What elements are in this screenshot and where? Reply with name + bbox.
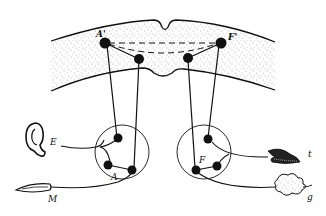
label-f: F <box>198 155 206 165</box>
nerve-muscle <box>51 172 132 188</box>
label-f-prime: F' <box>227 32 237 42</box>
muscle-icon <box>16 184 51 192</box>
label-muscle: M <box>47 194 58 204</box>
projection-inner-left-down <box>134 60 139 168</box>
projection-inner-right-down <box>188 60 195 168</box>
center-a-node-left <box>104 161 113 170</box>
center-f-node-right <box>213 162 222 171</box>
diagram-canvas: A' F' A F E M t <box>0 0 326 216</box>
nerve-gland <box>197 172 276 187</box>
center-a-node-top <box>114 134 123 143</box>
label-a: A <box>110 172 118 182</box>
center-f-circle <box>177 125 231 179</box>
node-inner-right <box>183 53 193 63</box>
label-gland: g <box>307 192 313 202</box>
label-a-prime: A' <box>95 29 106 39</box>
center-f-node-top <box>204 135 213 144</box>
node-a-prime <box>100 38 111 49</box>
label-ear: E <box>49 137 57 147</box>
center-a: A <box>95 125 149 182</box>
center-f: F <box>177 125 231 179</box>
node-f-prime <box>216 38 227 49</box>
cortex-band <box>51 20 275 91</box>
node-inner-left <box>134 54 144 64</box>
label-tongue: t <box>308 149 312 159</box>
nerve-tongue <box>212 142 268 157</box>
tongue-icon <box>268 149 300 163</box>
center-a-circle <box>95 125 149 179</box>
ear-icon <box>26 123 45 156</box>
